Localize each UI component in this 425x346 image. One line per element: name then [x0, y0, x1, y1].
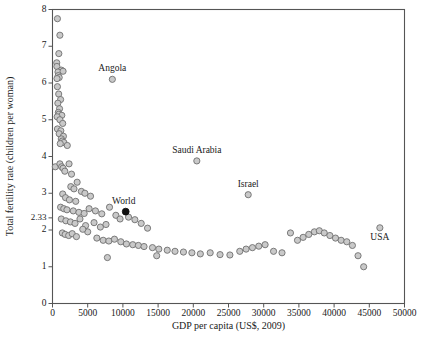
data-point — [349, 242, 355, 248]
annotation-label-usa: USA — [370, 232, 389, 242]
data-point — [243, 246, 249, 252]
y-tick-label-replacement-rate: 2.33 — [31, 212, 47, 222]
data-point — [66, 161, 72, 167]
data-point — [164, 247, 170, 253]
data-point-world — [122, 208, 129, 215]
data-point — [72, 220, 78, 226]
y-tick-label: 8 — [42, 4, 47, 14]
annotation-label-israel: Israel — [238, 179, 259, 189]
data-point — [344, 239, 350, 245]
data-point — [123, 241, 129, 247]
annotation-label-world: World — [112, 196, 136, 206]
y-tick-label: 3 — [42, 187, 47, 197]
data-point — [74, 179, 80, 185]
y-tick-label: 1 — [42, 261, 47, 271]
data-point — [270, 248, 276, 254]
data-point — [64, 142, 70, 148]
data-point — [189, 250, 195, 256]
data-point — [156, 246, 162, 252]
data-point — [141, 243, 147, 249]
x-tick-label: 30000 — [252, 308, 276, 318]
x-tick-label: 15000 — [146, 308, 170, 318]
data-point — [81, 210, 87, 216]
annotation-label-angola: Angola — [98, 63, 127, 73]
data-point — [138, 220, 144, 226]
data-point — [94, 235, 100, 241]
data-point — [132, 217, 138, 223]
x-axis-ticks: 0500010000150002000025000300003500040000… — [50, 304, 417, 319]
data-point — [180, 249, 186, 255]
data-point — [57, 141, 63, 147]
data-point — [207, 250, 213, 256]
x-tick-label: 40000 — [322, 308, 346, 318]
y-axis-title: Total fertility rate (children per woman… — [4, 77, 16, 237]
data-point — [194, 158, 200, 164]
scatter-plot-canvas: 0500010000150002000025000300003500040000… — [0, 0, 425, 346]
data-point — [54, 75, 60, 81]
x-tick-label: 50000 — [393, 308, 417, 318]
y-axis-ticks: 0122.33345678 — [31, 4, 53, 308]
data-point — [154, 253, 160, 259]
y-tick-label: 7 — [42, 40, 47, 50]
x-tick-label: 10000 — [111, 308, 135, 318]
x-tick-label: 45000 — [357, 308, 381, 318]
data-point — [111, 236, 117, 242]
data-point — [135, 242, 141, 248]
data-point — [54, 84, 60, 90]
data-point — [197, 251, 203, 257]
data-point — [109, 76, 115, 82]
fertility-gdp-scatter-figure: 0500010000150002000025000300003500040000… — [0, 0, 425, 346]
data-points-layer — [52, 16, 383, 270]
data-point — [262, 242, 268, 248]
x-tick-label: 5000 — [78, 308, 97, 318]
annotation-labels-layer: AngolaSaudi ArabiaIsraelWorldUSA — [98, 63, 389, 241]
data-point — [217, 252, 223, 258]
data-point — [355, 253, 361, 259]
x-tick-label: 20000 — [181, 308, 205, 318]
x-tick-label: 0 — [50, 308, 55, 318]
data-point — [287, 230, 293, 236]
data-point — [117, 216, 123, 222]
data-point — [227, 252, 233, 258]
data-point — [87, 193, 93, 199]
data-point — [73, 234, 79, 240]
data-point — [54, 16, 60, 22]
x-axis-title: GDP per capita (US$, 2009) — [172, 320, 285, 332]
data-point — [279, 250, 285, 256]
data-point — [245, 192, 251, 198]
data-point — [103, 221, 109, 227]
data-point — [104, 254, 110, 260]
y-tick-label: 6 — [42, 77, 47, 87]
y-tick-label: 4 — [42, 151, 47, 161]
data-point — [57, 32, 63, 38]
data-point — [68, 171, 74, 177]
data-point — [62, 168, 68, 174]
data-point — [86, 206, 92, 212]
data-point — [64, 207, 70, 213]
data-point — [60, 120, 66, 126]
x-tick-label: 25000 — [217, 308, 241, 318]
data-point — [66, 197, 72, 203]
data-point — [361, 264, 367, 270]
data-point — [56, 51, 62, 57]
data-point — [92, 208, 98, 214]
y-tick-label: 5 — [42, 114, 47, 124]
data-point — [71, 186, 77, 192]
y-tick-label: 2 — [42, 224, 47, 234]
data-point — [73, 198, 79, 204]
data-point — [149, 245, 155, 251]
data-point — [91, 220, 97, 226]
data-point — [80, 226, 86, 232]
data-point — [99, 211, 105, 217]
data-point — [237, 248, 243, 254]
data-point — [77, 216, 83, 222]
x-tick-label: 35000 — [287, 308, 311, 318]
y-tick-label: 0 — [42, 298, 47, 308]
data-point — [144, 225, 150, 231]
annotation-label-saudi-arabia: Saudi Arabia — [172, 145, 222, 155]
data-point — [249, 245, 255, 251]
data-point — [256, 243, 262, 249]
data-point — [377, 225, 383, 231]
data-point — [172, 248, 178, 254]
